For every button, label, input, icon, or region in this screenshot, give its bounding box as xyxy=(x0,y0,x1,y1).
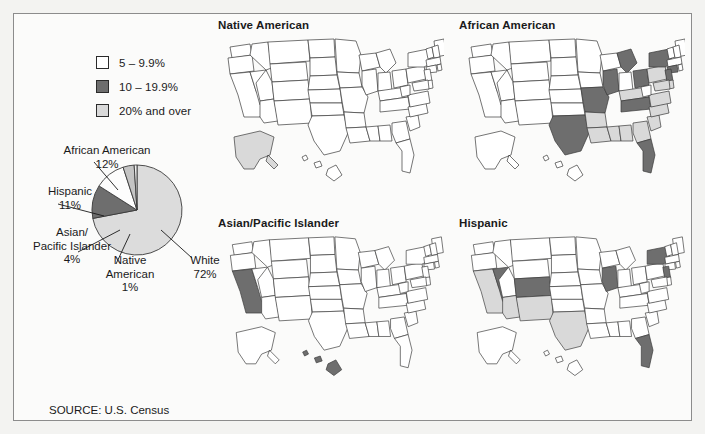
state-co xyxy=(513,80,551,101)
state-ia xyxy=(337,269,361,285)
state-nd xyxy=(309,237,335,256)
state-ri xyxy=(676,261,681,268)
state-wy xyxy=(512,259,549,279)
us-map-african-american xyxy=(457,33,685,205)
state-tx xyxy=(308,115,348,155)
state-il xyxy=(361,266,377,291)
state-hi xyxy=(544,350,583,375)
legend-item-mid: 10 – 19.9% xyxy=(96,76,191,97)
legend-label-mid: 10 – 19.9% xyxy=(119,81,178,93)
state-wy xyxy=(270,62,308,82)
state-or xyxy=(469,55,495,74)
state-ks xyxy=(549,89,583,103)
state-sc xyxy=(404,311,418,327)
state-ks xyxy=(309,286,342,300)
state-al xyxy=(618,321,632,337)
state-or xyxy=(471,252,496,271)
state-mi xyxy=(617,49,637,73)
state-il xyxy=(602,266,618,291)
state-mt xyxy=(510,238,551,261)
state-tx xyxy=(550,311,589,350)
state-mo xyxy=(340,284,367,309)
state-sd xyxy=(551,57,578,76)
state-wy xyxy=(271,259,308,279)
pie-label-hispanic: Hispanic 11% xyxy=(30,185,110,212)
map-title-african-american: African American xyxy=(459,19,689,31)
state-pa xyxy=(647,65,667,83)
state-or xyxy=(228,55,254,74)
state-al xyxy=(377,321,391,337)
state-al xyxy=(378,125,392,141)
state-nm xyxy=(516,295,553,320)
us-map-hispanic xyxy=(457,231,685,399)
map-title-asian-pacific-islander: Asian/Pacific Islander xyxy=(218,217,446,229)
state-sd xyxy=(310,57,337,76)
map-panel-african-american: African American xyxy=(457,19,689,214)
legend-swatch-low xyxy=(96,56,109,69)
state-ar xyxy=(344,308,365,324)
state-ok xyxy=(551,299,584,312)
legend-swatch-high xyxy=(96,104,109,117)
map-panel-asian-pacific-islander: Asian/Pacific Islander xyxy=(216,217,446,407)
state-mo xyxy=(340,87,368,113)
state-sd xyxy=(551,254,577,273)
population-pie-chart: African American 12% Hispanic 11% Asian/… xyxy=(32,142,232,302)
state-hi xyxy=(303,350,342,375)
state-sc xyxy=(406,115,420,131)
state-oh xyxy=(392,69,408,88)
pie-label-african-american: African American 12% xyxy=(47,144,167,171)
legend-swatch-mid xyxy=(96,80,109,93)
state-al xyxy=(619,125,633,141)
state-mn xyxy=(576,39,602,73)
state-ak xyxy=(236,327,279,364)
state-ia xyxy=(337,72,362,88)
state-il xyxy=(603,69,619,95)
state-wv xyxy=(641,85,651,97)
legend-label-low: 5 – 9.9% xyxy=(119,57,165,69)
state-ks xyxy=(308,89,342,103)
state-ak xyxy=(475,131,519,169)
state-sd xyxy=(310,254,336,273)
state-wv xyxy=(400,85,410,97)
state-ia xyxy=(578,72,603,88)
state-wv xyxy=(639,282,649,294)
map-panel-hispanic: Hispanic xyxy=(457,217,689,407)
state-pa xyxy=(406,65,426,83)
state-sc xyxy=(645,311,659,327)
state-fl xyxy=(394,335,412,368)
state-nm xyxy=(275,295,312,320)
state-mt xyxy=(269,238,310,261)
state-mo xyxy=(581,284,608,309)
state-mt xyxy=(509,40,551,64)
state-ne xyxy=(308,75,340,90)
state-mi xyxy=(375,247,395,270)
map-title-native-american: Native American xyxy=(218,19,446,31)
state-pa xyxy=(404,262,424,280)
us-map-asian-pacific-islander xyxy=(216,231,444,399)
state-ok xyxy=(310,299,343,312)
state-wv xyxy=(398,282,408,294)
source-note: SOURCE: U.S. Census xyxy=(49,404,169,416)
state-co xyxy=(514,277,551,298)
state-oh xyxy=(633,69,649,88)
state-ri xyxy=(678,64,683,71)
state-ne xyxy=(550,272,581,287)
legend-label-high: 20% and over xyxy=(119,105,191,117)
state-fl xyxy=(396,139,414,173)
state-il xyxy=(362,69,378,95)
state-ia xyxy=(578,269,602,285)
state-va xyxy=(406,288,427,304)
state-ne xyxy=(309,272,340,287)
state-ne xyxy=(549,75,581,90)
state-ar xyxy=(585,112,607,128)
state-co xyxy=(272,80,310,101)
state-tx xyxy=(309,311,348,350)
state-fl xyxy=(635,335,653,368)
state-hi xyxy=(302,155,342,181)
state-or xyxy=(230,252,255,271)
state-ar xyxy=(344,112,366,128)
legend-item-high: 20% and over xyxy=(96,100,191,121)
state-fl xyxy=(637,139,655,173)
state-oh xyxy=(391,266,407,285)
state-pa xyxy=(645,262,665,280)
